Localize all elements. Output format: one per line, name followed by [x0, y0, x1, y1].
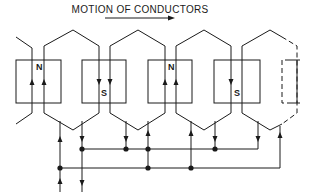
pole-label-2: S — [101, 88, 107, 98]
armature-winding-diagram — [0, 0, 317, 195]
pole-label-3: N — [168, 62, 175, 72]
coil-2 — [110, 30, 165, 130]
right-arrow-icon — [105, 16, 175, 21]
junction-dots — [57, 146, 217, 170]
coil-3 — [176, 30, 231, 130]
current-up-arrows — [30, 79, 179, 85]
coil-partial-left — [16, 37, 32, 124]
coil-1 — [44, 30, 99, 130]
coil-4 — [242, 30, 297, 130]
pole-label-1: N — [36, 62, 43, 72]
lead-arrows — [58, 130, 283, 186]
pole-label-4: S — [234, 88, 240, 98]
coil-leads — [60, 121, 280, 192]
